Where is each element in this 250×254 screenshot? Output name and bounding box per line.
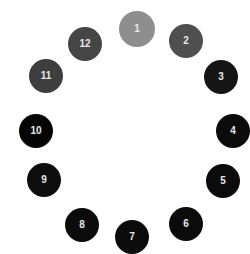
- dot-label: 11: [41, 71, 52, 81]
- dot-4: 4: [216, 114, 250, 148]
- dot-label: 2: [183, 36, 189, 46]
- dot-label: 6: [183, 219, 189, 229]
- dot-label: 1: [134, 24, 140, 34]
- dot-11: 11: [29, 59, 63, 93]
- dot-label: 9: [41, 175, 47, 185]
- dot-label: 8: [79, 220, 85, 230]
- dot-10: 10: [19, 114, 53, 148]
- dot-7: 7: [115, 220, 149, 254]
- dot-5: 5: [206, 164, 240, 198]
- dot-label: 10: [30, 126, 41, 136]
- dot-9: 9: [27, 163, 61, 197]
- dot-8: 8: [65, 208, 99, 242]
- dot-2: 2: [169, 24, 203, 58]
- dot-label: 7: [129, 232, 135, 242]
- dot-label: 12: [79, 39, 90, 49]
- dot-3: 3: [204, 60, 238, 94]
- dot-label: 4: [230, 126, 236, 136]
- dot-1: 1: [119, 11, 155, 47]
- dot-label: 3: [218, 72, 224, 82]
- dot-6: 6: [169, 207, 203, 241]
- dot-label: 5: [220, 176, 226, 186]
- dot-12: 12: [68, 27, 102, 61]
